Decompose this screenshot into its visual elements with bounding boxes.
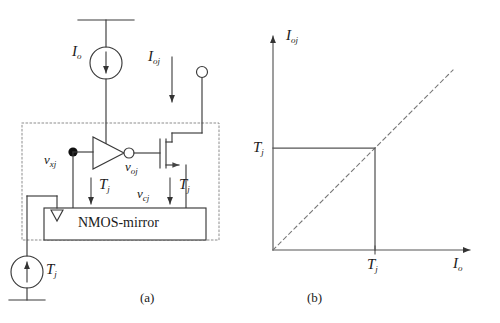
plot-x-axis-label: Io [453,255,463,273]
bottom-source-label: Tj [46,261,57,279]
plot-x-tick-label: Tj [367,256,378,274]
ioj-input-label: Ioj [148,48,160,66]
plot-y-axis-label: Ioj [286,27,298,45]
inverter-symbol [93,137,124,169]
ideal-unity-gain-line [273,70,453,250]
top-source-label: Io [72,43,82,61]
node-voj-label: voj [125,159,138,176]
nmos-mirror-label: NMOS-mirror [78,215,159,231]
inverter-bubble [124,148,134,158]
mirror-output-current-label: Tj [179,176,190,194]
mirror-input-current-label: Tj [99,176,110,194]
caption-a: (a) [140,290,154,306]
figure-root: Io Ioj vxj voj vcj Tj Tj Tj NMOS-mirror … [0,0,500,323]
node-vcj-label: vcj [137,186,149,203]
node-vxj-label: vxj [44,152,56,169]
caption-b: (b) [307,290,322,306]
ioj-open-terminal [197,67,208,78]
plot-y-tick-label: Tj [253,139,264,157]
